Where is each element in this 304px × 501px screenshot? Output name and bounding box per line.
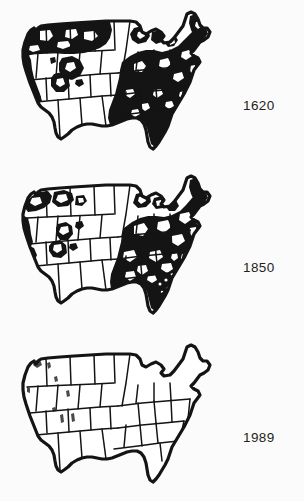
land-fill-1989	[23, 345, 210, 482]
us-map-1989	[14, 339, 226, 497]
us-map-1850-svg	[14, 170, 226, 328]
us-map-1989-svg	[14, 339, 226, 497]
us-map-1620-svg	[14, 6, 226, 164]
map-panel-1620: 1620	[0, 0, 304, 167]
us-map-1850	[14, 170, 226, 328]
map-panel-1989: 1989	[0, 333, 304, 500]
year-label-1850: 1850	[243, 260, 275, 275]
year-label-1989: 1989	[243, 430, 275, 445]
figure-root: 1620	[0, 0, 304, 501]
map-panel-1850: 1850	[0, 164, 304, 331]
year-label-1620: 1620	[243, 98, 275, 113]
us-map-1620	[14, 6, 226, 164]
